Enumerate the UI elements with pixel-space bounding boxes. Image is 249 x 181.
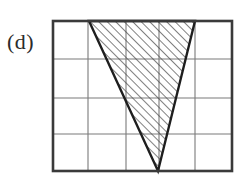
figure-panel: (d) xyxy=(0,0,249,181)
grid-figure-svg xyxy=(0,0,249,181)
